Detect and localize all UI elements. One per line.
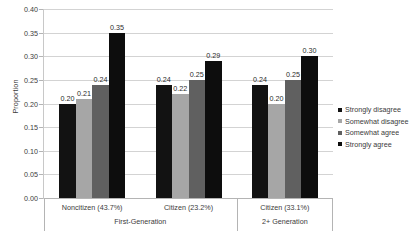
legend-swatch-icon: [338, 142, 342, 146]
bar-value-label: 0.29: [206, 51, 220, 60]
y-axis-tick-label: 0.40: [0, 5, 38, 14]
bar-value-label: 0.21: [77, 89, 91, 98]
y-axis-tick-mark: [39, 104, 43, 105]
bar: [92, 85, 109, 198]
y-axis-tick-mark: [39, 151, 43, 152]
bar: [205, 61, 222, 198]
y-axis-tick-label: 0.30: [0, 52, 38, 61]
bar: [268, 104, 285, 199]
legend-item: Somewhat disagree: [338, 116, 417, 127]
y-axis-tick-label: 0.10: [0, 146, 38, 155]
bar-value-label: 0.20: [60, 94, 74, 103]
legend-label: Strongly agree: [345, 140, 392, 149]
bar-value-label: 0.24: [253, 75, 267, 84]
y-axis-tick-mark: [39, 198, 43, 199]
legend: Strongly disagreeSomewhat disagreeSomewh…: [338, 104, 417, 150]
legend-swatch-icon: [338, 131, 342, 135]
gridline: [44, 33, 333, 34]
bar: [252, 85, 269, 198]
gridline: [44, 9, 333, 10]
bar-value-label: 0.20: [270, 94, 284, 103]
bar: [301, 56, 318, 198]
bar-value-label: 0.22: [173, 84, 187, 93]
bar-value-label: 0.30: [303, 46, 317, 55]
legend-label: Somewhat disagree: [345, 117, 409, 126]
supercategory-label: First-Generation: [114, 217, 166, 226]
category-axis-line: [44, 198, 333, 199]
category-label: Noncitizen (43.7%): [62, 203, 123, 212]
y-axis-tick-mark: [39, 56, 43, 57]
y-axis-tick-mark: [39, 9, 43, 10]
legend-item: Somewhat agree: [338, 127, 417, 138]
y-axis-tick-label: 0.00: [0, 194, 38, 203]
supercategory-label: 2+ Generation: [262, 217, 308, 226]
gridline: [44, 56, 333, 57]
legend-item: Strongly disagree: [338, 104, 417, 115]
y-axis-tick-label: 0.25: [0, 75, 38, 84]
y-axis-tick-mark: [39, 127, 43, 128]
plot-area: [44, 9, 333, 198]
category-separator: [237, 198, 238, 231]
legend-label: Somewhat agree: [345, 128, 399, 137]
legend-label: Strongly disagree: [345, 105, 401, 114]
bar-value-label: 0.25: [190, 70, 204, 79]
category-axis: Noncitizen (43.7%)Citizen (23.2%)Citizen…: [44, 198, 333, 238]
bar: [189, 80, 206, 198]
category-separator: [332, 198, 333, 231]
bar-value-label: 0.35: [110, 23, 124, 32]
legend-swatch-icon: [338, 108, 342, 112]
y-axis-tick-mark: [39, 174, 43, 175]
bar-chart: Proportion Noncitizen (43.7%)Citizen (23…: [0, 0, 417, 248]
category-label: Citizen (33.1%): [260, 203, 309, 212]
bar: [76, 99, 93, 198]
y-axis-tick-mark: [39, 33, 43, 34]
y-axis-tick-mark: [39, 80, 43, 81]
bar: [172, 94, 189, 198]
y-axis-tick-label: 0.15: [0, 123, 38, 132]
y-axis-tick-label: 0.20: [0, 99, 38, 108]
bar: [156, 85, 173, 198]
category-label: Citizen (23.2%): [164, 203, 213, 212]
bar-value-label: 0.25: [286, 70, 300, 79]
y-axis-tick-label: 0.05: [0, 170, 38, 179]
y-axis-tick-label: 0.35: [0, 28, 38, 37]
category-separator: [44, 198, 45, 231]
bar: [59, 104, 76, 199]
legend-swatch-icon: [338, 119, 342, 123]
legend-item: Strongly agree: [338, 139, 417, 150]
bar: [109, 33, 126, 198]
bar-value-label: 0.24: [93, 75, 107, 84]
bar-value-label: 0.24: [157, 75, 171, 84]
bar: [285, 80, 302, 198]
